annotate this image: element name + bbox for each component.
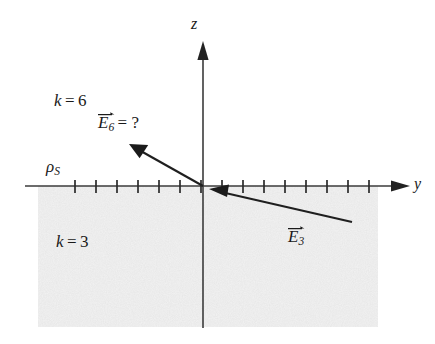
- triangle-arrowhead-icon: [197, 41, 208, 60]
- surface-charge-density-label: ρS: [46, 158, 60, 175]
- shaded-dielectric-region: [38, 186, 378, 327]
- E6-subscript: 6: [108, 121, 114, 134]
- z-axis-label: z: [191, 16, 197, 32]
- upper-region-constant-label: k = 6: [54, 92, 86, 109]
- vector-arrow-E6: [129, 144, 203, 186]
- rho-subscript: S: [54, 165, 60, 178]
- diagram-canvas: [0, 0, 435, 344]
- E6-unknown-suffix: = ?: [118, 113, 139, 132]
- triangle-arrowhead-icon: [391, 181, 410, 192]
- y-axis-label: y: [414, 176, 421, 192]
- vector-arrowhead-icon: [129, 144, 148, 158]
- vector-label-E6: E 6 = ?: [98, 114, 139, 131]
- E3-subscript: 3: [298, 235, 304, 248]
- equals-sign: =: [65, 91, 75, 110]
- vector-label-E3: E 3: [288, 228, 304, 245]
- equals-sign: =: [67, 232, 77, 251]
- field-diagram-figure: z y k = 6 k = 3 ρS E 6 = ?: [0, 0, 435, 344]
- lower-region-constant-label: k = 3: [56, 233, 88, 250]
